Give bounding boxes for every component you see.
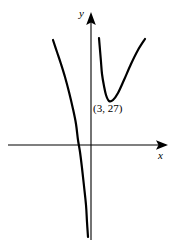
x-axis-label: x xyxy=(158,150,163,161)
coordinate-plot xyxy=(0,0,176,248)
minimum-point-label: (3, 27) xyxy=(93,103,122,114)
graph-figure: y x (3, 27) xyxy=(0,0,176,248)
curve-right-branch xyxy=(99,38,145,101)
curve-left-branch xyxy=(53,40,88,237)
y-axis-label: y xyxy=(79,8,84,19)
